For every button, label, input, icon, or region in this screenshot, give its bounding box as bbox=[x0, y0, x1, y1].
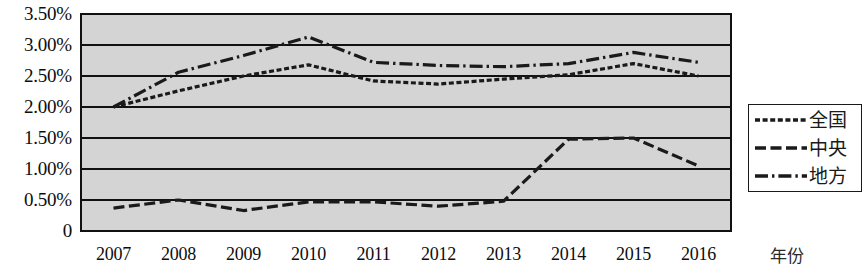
dotted-line-icon bbox=[754, 113, 808, 127]
x-axis-tick-label: 2009 bbox=[226, 244, 261, 264]
legend-label-quanguo: 全国 bbox=[809, 110, 847, 130]
x-axis-tick-label: 2008 bbox=[161, 244, 196, 264]
dashdot-line-icon bbox=[754, 169, 808, 183]
legend-item-quanguo: 全国 bbox=[754, 107, 847, 133]
x-axis-tick-label: 2016 bbox=[681, 244, 716, 264]
legend-item-zhongyang: 中央 bbox=[754, 135, 847, 161]
legend-label-zhongyang: 中央 bbox=[809, 138, 847, 158]
legend-label-difang: 地方 bbox=[809, 166, 847, 186]
plot-area bbox=[0, 0, 866, 273]
x-axis-tick-label: 2011 bbox=[356, 244, 390, 264]
legend-item-difang: 地方 bbox=[754, 163, 847, 189]
dashed-line-icon bbox=[754, 141, 808, 155]
x-axis-title: 年份 bbox=[770, 247, 804, 266]
x-axis-tick-label: 2010 bbox=[291, 244, 326, 264]
chart-legend: 全国 中央 地方 bbox=[748, 104, 862, 192]
x-axis-tick-label: 2014 bbox=[551, 244, 586, 264]
x-axis-tick-label: 2007 bbox=[96, 244, 131, 264]
x-axis: 2007200820092010201120122013201420152016 bbox=[0, 244, 866, 270]
line-chart: 00.50%1.00%1.50%2.00%2.50%3.00%3.50% 200… bbox=[0, 0, 866, 273]
x-axis-tick-label: 2012 bbox=[421, 244, 456, 264]
x-axis-tick-label: 2013 bbox=[486, 244, 521, 264]
x-axis-tick-label: 2015 bbox=[616, 244, 651, 264]
